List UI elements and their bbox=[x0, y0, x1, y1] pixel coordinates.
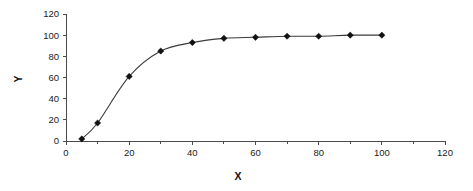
x-axis-title: X bbox=[234, 170, 241, 182]
x-tick-label: 80 bbox=[313, 147, 324, 158]
x-tick-label: 20 bbox=[124, 147, 135, 158]
x-tick-label: 100 bbox=[374, 147, 390, 158]
x-tick-label: 120 bbox=[437, 147, 453, 158]
y-tick-label: 20 bbox=[48, 114, 59, 125]
y-axis-title: Y bbox=[12, 75, 24, 82]
chart-background bbox=[0, 0, 473, 191]
y-tick-label: 40 bbox=[48, 93, 59, 104]
chart-container: 020406080100120 020406080100120 X Y bbox=[0, 0, 473, 191]
y-tick-label: 0 bbox=[54, 135, 59, 146]
x-tick-label: 40 bbox=[187, 147, 198, 158]
x-tick-label: 60 bbox=[250, 147, 261, 158]
y-tick-label: 80 bbox=[48, 51, 59, 62]
line-chart: 020406080100120 020406080100120 X Y bbox=[0, 0, 473, 191]
x-tick-label: 0 bbox=[63, 147, 68, 158]
y-tick-label: 100 bbox=[43, 30, 59, 41]
y-tick-label: 120 bbox=[43, 8, 59, 19]
y-tick-label: 60 bbox=[48, 72, 59, 83]
